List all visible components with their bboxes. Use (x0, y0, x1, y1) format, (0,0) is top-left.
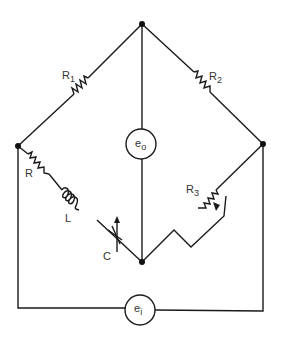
label-r1: R1 (62, 69, 75, 84)
bridge-circuit-diagram: R1 R2 R3 R L C eo ei (0, 0, 283, 340)
label-r2: R2 (209, 70, 222, 85)
input-voltage-branch (18, 144, 263, 325)
resistor-r1 (18, 24, 142, 146)
label-c: C (103, 250, 111, 262)
label-r3: R3 (186, 183, 199, 198)
label-l: L (65, 212, 71, 224)
node-bottom (139, 259, 145, 265)
resistor-r2 (142, 24, 263, 144)
node-top (139, 21, 145, 27)
label-r: R (25, 167, 33, 179)
rlc-branch (18, 146, 142, 262)
node-right (260, 141, 266, 147)
node-left (15, 143, 21, 149)
resistor-r3 (142, 144, 263, 262)
